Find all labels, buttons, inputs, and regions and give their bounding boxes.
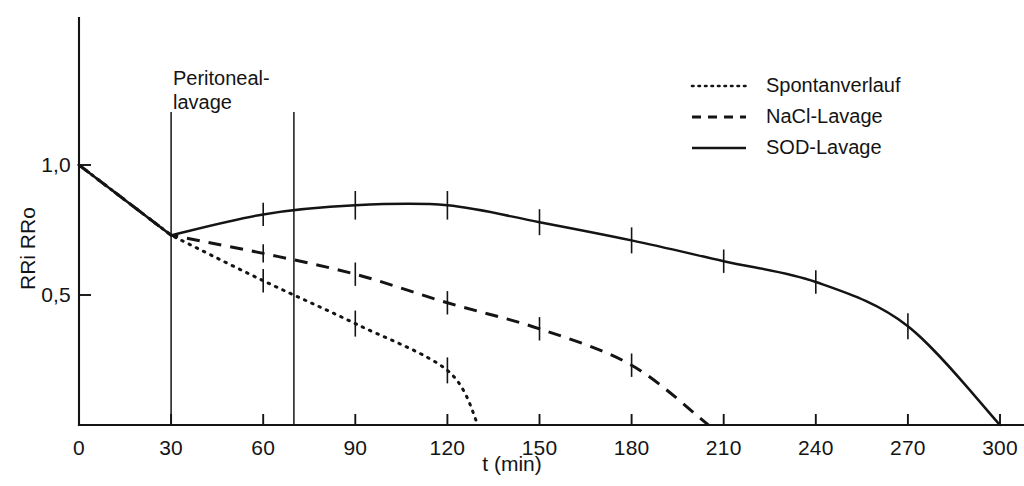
legend-label: SOD-Lavage: [766, 136, 882, 159]
x-tick-label: 60: [251, 436, 275, 460]
error-bars: [79, 153, 908, 383]
x-tick-label: 30: [159, 436, 183, 460]
x-axis-title: t (min): [482, 452, 542, 476]
chart-figure: 03060901201501802102402703000,51,0 RRi R…: [0, 0, 1024, 486]
legend-label: NaCl-Lavage: [766, 105, 883, 128]
solid-line-icon: [690, 141, 748, 155]
x-tick-label: 240: [798, 436, 834, 460]
x-tick-label: 270: [890, 436, 926, 460]
dashed-line-icon: [690, 110, 748, 124]
curve-sod-lavage: [79, 165, 1000, 425]
lavage-interval-markers: [171, 112, 294, 425]
data-curves: [79, 165, 1000, 425]
x-tick-label: 180: [614, 436, 650, 460]
y-tick-label: 1,0: [27, 153, 71, 177]
x-tick-label: 90: [343, 436, 367, 460]
chart-legend: SpontanverlaufNaCl-LavageSOD-Lavage: [690, 70, 1010, 163]
annotation-line-1: Peritoneal-: [173, 66, 270, 90]
peritoneal-lavage-annotation: Peritoneal- lavage: [173, 66, 270, 115]
legend-label: Spontanverlauf: [766, 74, 901, 97]
x-tick-label: 0: [73, 436, 85, 460]
legend-item-nacl-lavage[interactable]: NaCl-Lavage: [690, 101, 1010, 132]
legend-item-spontanverlauf[interactable]: Spontanverlauf: [690, 70, 1010, 101]
x-tick-label: 210: [706, 436, 742, 460]
legend-item-sod-lavage[interactable]: SOD-Lavage: [690, 132, 1010, 163]
x-tick-label: 300: [982, 436, 1018, 460]
x-tick-label: 120: [430, 436, 466, 460]
annotation-line-2: lavage: [173, 90, 270, 114]
dotted-line-icon: [690, 79, 748, 93]
y-axis-title: RRi RRo: [16, 207, 40, 290]
